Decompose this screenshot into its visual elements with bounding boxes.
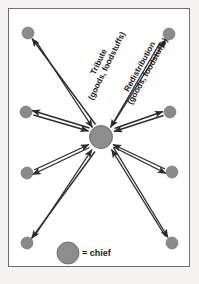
arrow-tribute-e-upper — [114, 116, 164, 132]
node-village-nw — [22, 27, 34, 39]
node-village-sw — [21, 237, 33, 249]
arrow-tribute-w-upper — [34, 115, 89, 131]
node-village-se — [166, 237, 178, 249]
legend-label: = chief — [82, 248, 112, 258]
node-village-e-upper — [164, 106, 176, 118]
label-tribute: Tribute (goods, foodstuffs) — [78, 26, 127, 101]
arrow-redistribution-sw — [32, 152, 96, 239]
node-chief-center — [90, 126, 113, 149]
node-village-w-upper — [20, 106, 32, 118]
arrow-tribute-se — [112, 150, 166, 237]
arrow-redistribution-e-upper — [115, 112, 164, 129]
arrow-redistribution-nw — [32, 39, 96, 125]
figure-screenshot: Tribute (goods, foodstuffs) Redistributi… — [0, 0, 199, 284]
node-village-w-lower — [21, 167, 33, 179]
legend-chief-symbol-icon — [57, 242, 79, 264]
arrow-redistribution-w-upper — [32, 111, 90, 129]
legend: = chief — [57, 242, 112, 264]
label-redistribution: Redistribution (goods, foodstuffs) — [118, 32, 170, 106]
chiefdom-diagram: Tribute (goods, foodstuffs) Redistributi… — [0, 0, 199, 284]
node-village-e-lower — [166, 166, 178, 178]
